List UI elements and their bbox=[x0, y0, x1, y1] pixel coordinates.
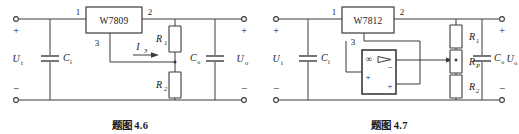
resistor-r2-label: R bbox=[155, 79, 162, 90]
pin-2-label: 2 bbox=[400, 7, 405, 17]
potentiometer-rp bbox=[450, 50, 462, 73]
resistor-r1 bbox=[450, 25, 462, 48]
current-arrow-head bbox=[151, 52, 159, 58]
junction-divider-tap bbox=[174, 61, 177, 64]
figure-caption-4-6: 题图4.6 bbox=[0, 117, 260, 132]
opamp-inverting-input-label: − bbox=[387, 62, 392, 72]
input-voltage-label: U bbox=[272, 53, 280, 64]
resistor-r1 bbox=[169, 26, 181, 52]
pin-2-label: 2 bbox=[148, 7, 153, 17]
input-polarity-minus: − bbox=[13, 82, 19, 94]
terminal-output-positive bbox=[500, 17, 505, 22]
resistor-r2-label: R bbox=[468, 81, 475, 92]
caption-number: 4.7 bbox=[394, 120, 408, 131]
regulator-ic-label: W7809 bbox=[100, 16, 129, 26]
pin-1-label: 1 bbox=[76, 7, 81, 17]
output-cap-label-sub: o bbox=[501, 58, 504, 65]
input-polarity-minus: − bbox=[273, 82, 279, 94]
current-label-sub: 3 bbox=[143, 47, 148, 54]
circuit-diagram-4-7: W7812 1 2 3 ∞ − bbox=[260, 0, 519, 112]
resistor-r2 bbox=[169, 72, 181, 98]
resistor-r1-label-sub: 1 bbox=[476, 37, 479, 44]
input-voltage-label-sub: i bbox=[21, 59, 23, 66]
resistor-r1-label: R bbox=[155, 33, 162, 44]
pin-3-label: 3 bbox=[95, 38, 100, 48]
output-cap-label-sub: o bbox=[197, 58, 200, 65]
input-cap-label: C bbox=[321, 52, 328, 63]
input-polarity-plus: + bbox=[13, 24, 19, 36]
caption-number: 4.6 bbox=[134, 120, 148, 131]
opamp-noninverting-input-label: + bbox=[365, 72, 370, 82]
pin-1-label: 1 bbox=[332, 7, 337, 17]
circuit-diagram-4-6: W7809 1 2 3 I 3 R 1 bbox=[0, 0, 260, 112]
output-polarity-minus: − bbox=[241, 82, 247, 94]
output-polarity-plus: + bbox=[241, 24, 247, 36]
resistor-r2-label-sub: 2 bbox=[164, 85, 168, 92]
resistor-r2-label-sub: 2 bbox=[476, 87, 480, 94]
terminal-output-positive bbox=[242, 17, 247, 22]
terminal-input-positive bbox=[274, 17, 279, 22]
output-polarity-plus: + bbox=[499, 24, 505, 36]
input-cap-label: C bbox=[63, 52, 70, 63]
input-cap-label-sub: i bbox=[70, 58, 72, 65]
figure-pair-page: W7809 1 2 3 I 3 R 1 bbox=[0, 0, 519, 134]
output-voltage-label-sub: o bbox=[514, 59, 517, 66]
terminal-output-negative bbox=[242, 98, 247, 103]
potentiometer-rp-label-sub: P bbox=[475, 62, 480, 69]
caption-label: 题图 bbox=[371, 120, 392, 131]
caption-label: 题图 bbox=[112, 120, 133, 131]
output-cap-label: C bbox=[494, 52, 501, 63]
figure-4-6: W7809 1 2 3 I 3 R 1 bbox=[0, 0, 260, 134]
pin-3-label: 3 bbox=[351, 37, 356, 47]
figure-caption-4-7: 题图4.7 bbox=[260, 117, 519, 132]
input-cap-label-sub: i bbox=[328, 58, 330, 65]
terminal-input-negative bbox=[14, 98, 19, 103]
terminal-input-positive bbox=[14, 17, 19, 22]
terminal-input-negative bbox=[274, 98, 279, 103]
resistor-r1-label-sub: 1 bbox=[164, 39, 167, 46]
current-label: I bbox=[135, 41, 140, 52]
junction-wiper bbox=[455, 59, 458, 62]
opamp-output-plus-label: + bbox=[387, 81, 392, 91]
resistor-r1-label: R bbox=[468, 31, 475, 42]
resistor-r2 bbox=[450, 75, 462, 98]
input-voltage-label-sub: i bbox=[281, 59, 283, 66]
output-voltage-label: U bbox=[236, 53, 244, 64]
output-cap-label: C bbox=[190, 52, 197, 63]
input-voltage-label: U bbox=[12, 53, 20, 64]
opamp-gain-symbol: ∞ bbox=[366, 54, 372, 64]
terminal-output-negative bbox=[500, 98, 505, 103]
regulator-ic-label: W7812 bbox=[354, 16, 383, 26]
input-polarity-plus: + bbox=[273, 24, 279, 36]
figure-4-7: W7812 1 2 3 ∞ − bbox=[260, 0, 519, 134]
output-voltage-label-sub: o bbox=[245, 59, 248, 66]
output-polarity-minus: − bbox=[499, 82, 505, 94]
